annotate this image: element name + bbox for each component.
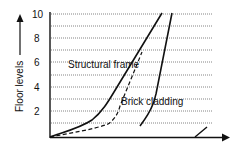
brick-cladding-label: Brick cladding — [121, 96, 183, 107]
tick-label-6: 6 — [34, 57, 40, 68]
y-axis-label: Floor levels — [14, 61, 25, 112]
structural-frame-label: Structural frame — [68, 59, 140, 70]
x-axis-arrow-icon — [222, 134, 230, 142]
tick-label-10: 10 — [32, 9, 44, 20]
floor-levels-diagram: Floor levels 10 8 6 4 2 Structural frame… — [0, 0, 238, 149]
y-label-arrow-icon — [17, 14, 24, 22]
tick-label-8: 8 — [34, 33, 40, 44]
short-segment — [195, 127, 207, 137]
tick-label-2: 2 — [34, 106, 40, 117]
tick-label-4: 4 — [34, 82, 40, 93]
brick-cladding-curve — [140, 13, 172, 126]
